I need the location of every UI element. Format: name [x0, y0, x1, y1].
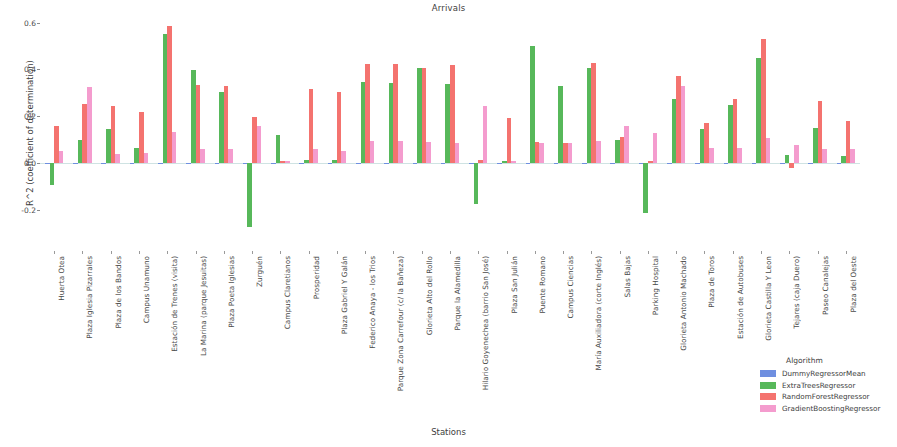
bar-group	[639, 18, 657, 233]
legend-color-swatch	[760, 382, 776, 389]
bar-group	[186, 18, 204, 233]
bar-group	[724, 18, 742, 233]
chart-bar	[384, 163, 389, 164]
chart-bar	[276, 135, 281, 163]
plot-area: 0.60.40.20.0-0.2Huerta OteaPlaza Iglesia…	[40, 18, 860, 233]
x-axis-tick-mark	[733, 251, 734, 254]
chart-bar	[426, 142, 431, 163]
bar-group	[526, 18, 544, 233]
legend-item: RandomForestRegressor	[760, 392, 897, 401]
x-axis-tick-mark	[54, 251, 55, 254]
chart-bar	[271, 163, 276, 164]
chart-bar	[539, 143, 544, 163]
legend-item-label: GradientBoostingRegressor	[782, 404, 880, 413]
chart-bar	[808, 163, 813, 164]
x-axis-tick-mark	[309, 251, 310, 254]
x-axis-tick-label: Campus Unamuno	[142, 256, 151, 323]
chart-bar	[568, 143, 573, 163]
x-axis-tick-label: Hilario Goyenechea (barrio San José)	[481, 256, 490, 390]
x-axis-tick-mark	[535, 251, 536, 254]
legend-color-swatch	[760, 393, 776, 400]
chart-bar	[582, 163, 587, 164]
x-axis-tick-mark	[280, 251, 281, 254]
chart-bar	[624, 126, 629, 163]
x-axis-tick-label: Huerta Otea	[57, 256, 66, 301]
x-axis-tick-mark	[252, 251, 253, 254]
chart-bar	[186, 163, 191, 164]
chart-bar	[837, 163, 842, 164]
chart-bar	[667, 163, 672, 164]
chart-bar	[441, 163, 446, 164]
x-axis-tick-label: Plaza Gabriel Y Galán	[340, 256, 349, 334]
bar-group	[413, 18, 431, 233]
chart-bar	[455, 143, 460, 163]
chart-bar	[822, 149, 827, 163]
chart-bar	[653, 133, 658, 163]
x-axis-tick-label: Salas Bajas	[623, 256, 632, 298]
chart-bar	[356, 163, 361, 164]
chart-bar	[144, 153, 149, 163]
chart-bar	[50, 163, 55, 185]
y-axis-tick-label: 0.2	[24, 112, 36, 121]
chart-bar	[328, 163, 333, 164]
y-axis-tick-mark	[37, 69, 40, 70]
chart-bar	[497, 163, 502, 164]
bar-group	[695, 18, 713, 233]
chart-bar	[398, 141, 403, 163]
y-axis-tick-mark	[37, 116, 40, 117]
chart-bar	[215, 163, 220, 164]
x-axis-tick-label: Campus Ciencias	[566, 256, 575, 319]
chart-bar	[643, 163, 648, 213]
chart-bar	[257, 126, 262, 163]
x-axis-tick-label: Puente Romano	[538, 256, 547, 314]
y-axis-tick-mark	[37, 23, 40, 24]
x-axis-tick-label: Plaza de Toros	[707, 256, 716, 308]
legend-title: Algorithm	[786, 356, 897, 365]
chart-bar	[850, 149, 855, 163]
bar-chart-figure: Arrivals R^2 (coefficient of determinati…	[0, 0, 897, 447]
x-axis-tick-label: Parque Zona Carrefour (c/ la Bañeza)	[396, 256, 405, 391]
y-axis-label: R^2 (coefficient of determination)	[25, 3, 35, 263]
chart-bar	[554, 163, 559, 164]
x-axis-tick-label: Estación de Autobuses	[736, 256, 745, 339]
legend-color-swatch	[760, 405, 776, 412]
chart-legend: Algorithm DummyRegressorMeanExtraTreesRe…	[760, 356, 897, 415]
x-axis-tick-label: Glorieta Antonio Machado	[679, 256, 688, 351]
x-axis-tick-mark	[620, 251, 621, 254]
bar-group	[299, 18, 317, 233]
x-axis-tick-label: María Auxiliadora (corte Inglés)	[594, 256, 603, 371]
bar-group	[45, 18, 63, 233]
legend-item-label: DummyRegressorMean	[782, 369, 866, 378]
x-axis-tick-mark	[337, 251, 338, 254]
x-axis-tick-mark	[648, 251, 649, 254]
chart-bar	[130, 163, 135, 164]
chart-bar	[789, 163, 794, 168]
x-axis-tick-mark	[591, 251, 592, 254]
x-axis-tick-label: Estación de Trenes (visita)	[170, 256, 179, 352]
chart-bar	[752, 163, 757, 164]
chart-bar	[313, 149, 318, 163]
x-axis-tick-label: Plaza San Julián	[510, 256, 519, 314]
chart-bar	[709, 148, 714, 162]
legend-entries: DummyRegressorMeanExtraTreesRegressorRan…	[760, 369, 897, 413]
y-axis-tick-mark	[37, 210, 40, 211]
chart-bar	[511, 161, 516, 163]
x-axis-tick-label: Parque la Alamedilla	[453, 256, 462, 331]
x-axis-tick-mark	[478, 251, 479, 254]
chart-bar	[299, 163, 304, 164]
bar-group	[356, 18, 374, 233]
y-axis-tick-label: 0.6	[24, 18, 36, 27]
chart-bar	[610, 163, 615, 164]
chart-bar	[200, 149, 205, 163]
x-axis-tick-mark	[450, 251, 451, 254]
chart-bar	[766, 138, 771, 163]
bar-group	[441, 18, 459, 233]
chart-bar	[724, 163, 729, 164]
bar-group	[837, 18, 855, 233]
x-axis-tick-label: Federico Anaya - los Trios	[368, 256, 377, 349]
chart-bar	[483, 106, 488, 163]
x-axis-tick-mark	[422, 251, 423, 254]
x-axis-tick-mark	[196, 251, 197, 254]
x-axis-tick-label: Plaza Iglesia Pizarrales	[85, 256, 94, 339]
bar-group	[73, 18, 91, 233]
